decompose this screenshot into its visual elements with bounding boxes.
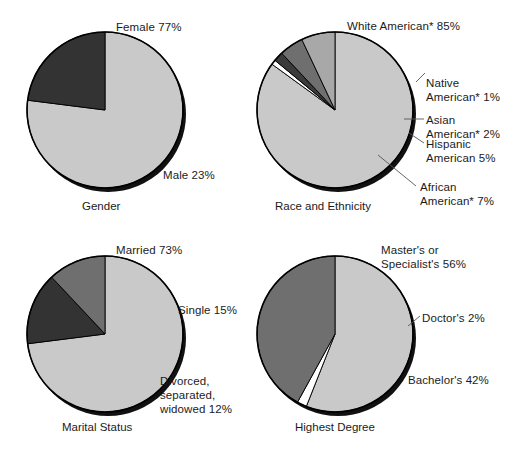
slice-label-doctors: Doctor's 2%: [422, 311, 485, 325]
slice-label-masters: Master's or Specialist's 56%: [381, 243, 466, 271]
pie-svg-degree: Master's or Specialist's 56%Doctor's 2%B…: [0, 0, 516, 459]
slice-label-bachelors: Bachelor's 42%: [408, 373, 489, 387]
chart-panel-degree: Master's or Specialist's 56%Doctor's 2%B…: [258, 229, 516, 459]
chart-caption-degree: Highest Degree: [295, 420, 375, 434]
pie-chart-figure: Female 77%Male 23%Female 77%Male 23%Gend…: [0, 0, 516, 459]
